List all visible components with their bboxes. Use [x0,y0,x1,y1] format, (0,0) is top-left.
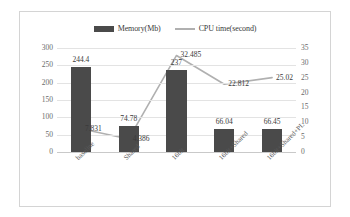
y-axis-left-tick-label: 150 [42,96,53,104]
y-axis-right-tick-label: 5 [301,133,305,141]
line-value-label: 25.02 [276,74,293,82]
y-axis-right-tick-label: 35 [301,44,309,52]
legend-entry-cpu-time: CPU time(second) [175,24,257,33]
y-axis-right-tick-label: 15 [301,103,309,111]
legend-entry-memory: Memory(Mb) [94,24,161,33]
y-axis-right-tick-label: 30 [301,59,309,67]
plot-area: 30025020015010050035302520151050244.474.… [57,48,296,152]
y-axis-left-tick-label: 0 [49,148,53,156]
bar [71,67,91,152]
legend-label-cpu-time: CPU time(second) [199,24,257,33]
bar-value-label: 244.4 [57,56,105,64]
bar-value-label: 66.45 [248,118,296,126]
line-value-label: 32.485 [181,51,202,59]
y-axis-right-tick-label: 0 [301,148,305,156]
y-axis-left-tick-label: 100 [42,113,53,121]
y-axis-right-tick-label: 25 [301,74,309,82]
y-axis-left-tick-label: 50 [46,131,54,139]
chart-container: Memory(Mb) CPU time(second) 300250200150… [19,11,331,207]
y-axis-left-tick-label: 250 [42,61,53,69]
line-value-label: 22.812 [228,80,249,88]
bar-swatch-icon [94,26,114,32]
y-axis-left-tick-label: 300 [42,44,53,52]
y-axis-left-tick-label: 200 [42,79,53,87]
bar-value-label: 237 [153,59,201,67]
chart-legend: Memory(Mb) CPU time(second) [20,24,330,33]
line-value-label: 7.831 [85,125,102,133]
legend-label-memory: Memory(Mb) [118,24,161,33]
line-swatch-icon [175,28,195,30]
y-axis-right-tick-label: 20 [301,89,309,97]
gridline [57,48,296,49]
bar-value-label: 74.78 [105,115,153,123]
bar [166,70,186,152]
bar-value-label: 66.04 [200,118,248,126]
line-value-label: 4.386 [133,135,150,143]
